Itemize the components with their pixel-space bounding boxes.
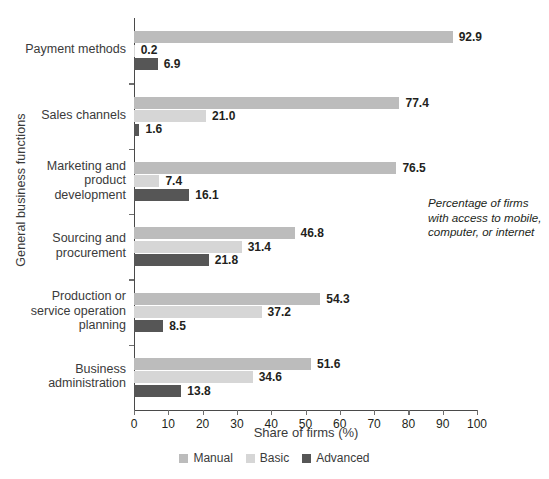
bar-value-label: 34.6 (259, 371, 282, 383)
category-label-line: procurement (0, 246, 126, 261)
bar-value-label: 31.4 (248, 241, 271, 253)
y-axis-tick (129, 279, 134, 280)
x-axis-tick (271, 410, 272, 415)
bar-value-label: 76.5 (402, 162, 425, 174)
category-label-line: administration (0, 376, 126, 391)
x-axis-tick (237, 410, 238, 415)
legend-swatch-manual (179, 454, 188, 463)
bar-basic (134, 306, 262, 318)
y-axis-line (134, 18, 135, 410)
y-axis-tick (129, 83, 134, 84)
x-axis-tick (477, 410, 478, 415)
y-axis-tick (129, 345, 134, 346)
bar-advanced (134, 254, 209, 266)
x-axis-tick (168, 410, 169, 415)
category-label-list: Payment methodsSales channelsMarketing a… (0, 18, 126, 410)
legend-label: Basic (260, 452, 289, 464)
bar-value-label: 1.6 (145, 123, 162, 135)
bar-manual (134, 227, 295, 239)
x-axis-title: Share of firms (%) (134, 425, 478, 440)
bar-value-label: 21.0 (212, 110, 235, 122)
bar-manual (134, 31, 453, 43)
bar-basic (134, 175, 159, 187)
annotation-line: Percentage of firms (428, 196, 548, 211)
x-axis-tick (306, 410, 307, 415)
category-label-line: planning (0, 318, 126, 333)
bar-value-label: 13.8 (187, 385, 210, 397)
x-axis-tick (340, 410, 341, 415)
x-axis-tick (203, 410, 204, 415)
legend-swatch-advanced (302, 454, 311, 463)
bar-chart: General business functions Payment metho… (0, 0, 549, 479)
x-axis-tick (443, 410, 444, 415)
category-label: Marketing andproductdevelopment (0, 159, 126, 203)
reference-line-annotation: Percentage of firmswith access to mobile… (428, 196, 548, 240)
y-axis-tick (129, 149, 134, 150)
bar-manual (134, 293, 320, 305)
x-axis-tick (134, 410, 135, 415)
category-label-line: development (0, 188, 126, 203)
legend-item-advanced[interactable]: Advanced (302, 452, 369, 464)
category-label-line: Payment methods (0, 42, 126, 57)
annotation-line: computer, or internet (428, 225, 548, 240)
bar-value-label: 7.4 (165, 175, 182, 187)
bar-value-label: 6.9 (164, 58, 181, 70)
x-axis-tick (408, 410, 409, 415)
bar-value-label: 92.9 (459, 31, 482, 43)
bar-advanced (134, 385, 181, 397)
category-label: Payment methods (0, 42, 126, 57)
bar-value-label: 51.6 (317, 358, 340, 370)
category-label-line: Production or (0, 289, 126, 304)
annotation-line: with access to mobile, (428, 211, 548, 226)
bar-manual (134, 97, 399, 109)
category-label: Sourcing andprocurement (0, 231, 126, 260)
bar-value-label: 46.8 (301, 227, 324, 239)
bar-basic (134, 241, 242, 253)
bar-value-label: 16.1 (195, 189, 218, 201)
bar-basic (134, 371, 253, 383)
bar-value-label: 21.8 (215, 254, 238, 266)
category-label-line: Business (0, 362, 126, 377)
bar-value-label: 54.3 (326, 293, 349, 305)
category-label-line: Sourcing and (0, 231, 126, 246)
plot-area: 010203040506070809010092.90.26.977.421.0… (134, 18, 477, 410)
legend-item-basic[interactable]: Basic (246, 452, 289, 464)
legend-item-manual[interactable]: Manual (179, 452, 232, 464)
bar-value-label: 37.2 (268, 306, 291, 318)
bar-value-label: 0.2 (141, 44, 158, 56)
bar-advanced (134, 320, 163, 332)
bar-basic (134, 110, 206, 122)
bar-advanced (134, 189, 189, 201)
category-label-line: Marketing and (0, 159, 126, 174)
y-axis-tick (129, 214, 134, 215)
category-label: Production orservice operationplanning (0, 289, 126, 333)
bar-manual (134, 358, 311, 370)
category-label: Sales channels (0, 108, 126, 123)
category-label-line: service operation (0, 304, 126, 319)
bar-basic (134, 45, 135, 57)
bar-advanced (134, 58, 158, 70)
x-axis-tick (374, 410, 375, 415)
legend-swatch-basic (246, 454, 255, 463)
legend-label: Advanced (316, 452, 369, 464)
legend-label: Manual (193, 452, 232, 464)
category-label: Businessadministration (0, 362, 126, 391)
legend: ManualBasicAdvanced (0, 452, 549, 464)
bar-manual (134, 162, 396, 174)
bar-value-label: 77.4 (405, 97, 428, 109)
bar-value-label: 8.5 (169, 320, 186, 332)
bar-advanced (134, 124, 139, 136)
category-label-line: Sales channels (0, 108, 126, 123)
category-label-line: product (0, 173, 126, 188)
